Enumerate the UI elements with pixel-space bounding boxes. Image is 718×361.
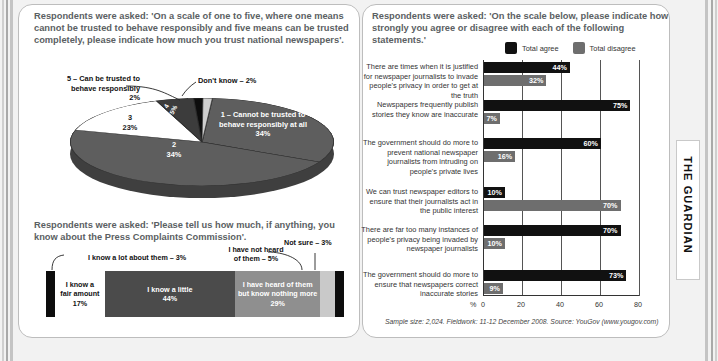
bar-disagree-5: 10% bbox=[484, 238, 505, 249]
sbar-callout-knowalot: I know a lot about them – 3% bbox=[88, 253, 186, 262]
stack-seg-alittle-value: 44% bbox=[163, 294, 177, 303]
stack-seg-heardof: I have heard of thembut know nothing mor… bbox=[235, 271, 321, 317]
bar-disagree-1-value: 32% bbox=[529, 76, 546, 85]
bar-chart-x-axis bbox=[483, 295, 639, 296]
x-tick-80: 80 bbox=[634, 300, 642, 309]
bar-disagree-6: 9% bbox=[484, 283, 503, 294]
stack-seg-heardof-label: I have heard of thembut know nothing mor… bbox=[238, 280, 317, 298]
bar-disagree-2-value: 7% bbox=[487, 114, 500, 123]
bar-agree-2-value: 75% bbox=[613, 101, 630, 110]
stack-seg-heardof-value: 29% bbox=[270, 299, 284, 308]
legend-swatch-agree bbox=[505, 42, 517, 54]
legend-swatch-disagree bbox=[573, 42, 585, 54]
bar-row-label-4: We can trust newspaper editors to ensure… bbox=[360, 187, 478, 216]
pie-callout-dontknow: Don't know – 2% bbox=[198, 76, 256, 86]
bar-agree-6-value: 73% bbox=[609, 271, 626, 280]
bar-chart-statements: There are times when it is justified for… bbox=[483, 60, 639, 296]
page-edge-line-1 bbox=[705, 0, 708, 361]
bar-disagree-1: 32% bbox=[484, 75, 546, 86]
gridline-80 bbox=[639, 60, 640, 296]
pie-label-3: 323% bbox=[110, 113, 150, 132]
bar-agree-5-value: 70% bbox=[603, 226, 620, 235]
sbar-callout-nothead: I have not heardof them – 5% bbox=[213, 245, 299, 264]
gridline-60 bbox=[600, 60, 601, 296]
question-trust-text: Respondents were asked: 'On a scale of o… bbox=[34, 10, 354, 47]
bar-disagree-5-value: 10% bbox=[488, 239, 505, 248]
bar-agree-1: 44% bbox=[484, 62, 570, 73]
x-axis-unit-label: % bbox=[470, 300, 476, 309]
bar-disagree-4-value: 70% bbox=[603, 201, 620, 210]
gridline-40 bbox=[561, 60, 562, 296]
stack-seg-knowalot bbox=[46, 271, 55, 317]
bar-agree-3: 60% bbox=[484, 138, 601, 149]
stack-seg-notheard bbox=[320, 271, 335, 317]
page-edge-line-2 bbox=[711, 0, 713, 361]
bar-row-label-1: There are times when it is justified for… bbox=[360, 62, 478, 100]
pie-callout-5: 5 – Can be trusted tobehave responsibly2… bbox=[36, 74, 140, 103]
bar-chart-y-axis bbox=[483, 60, 484, 296]
x-tick-0: 0 bbox=[481, 300, 485, 309]
source-footnote: Sample size: 2,024. Fieldwork: 11-12 Dec… bbox=[385, 318, 665, 325]
page-spine-line-2 bbox=[6, 0, 8, 361]
legend-label-agree: Total agree bbox=[522, 44, 559, 53]
sbar-callout-notsure: Not sure – 3% bbox=[284, 238, 332, 247]
bar-agree-2: 75% bbox=[484, 100, 630, 111]
legend-item-agree: Total agree bbox=[505, 42, 559, 54]
page-spine-line-3 bbox=[10, 0, 13, 361]
x-tick-20: 20 bbox=[517, 300, 525, 309]
guardian-masthead-label: THE GUARDIAN bbox=[682, 136, 694, 274]
guardian-masthead-box: THE GUARDIAN bbox=[676, 140, 700, 280]
stack-seg-notsure bbox=[335, 271, 344, 317]
bar-disagree-2: 7% bbox=[484, 113, 500, 124]
bar-row-label-6: The government should do more to ensure … bbox=[360, 270, 478, 299]
bar-agree-4-value: 10% bbox=[488, 188, 505, 197]
pie-label-1: 1 – Cannot be trusted tobehave responsib… bbox=[205, 110, 321, 139]
pie-label-2: 234% bbox=[154, 140, 194, 159]
bar-agree-5: 70% bbox=[484, 225, 621, 236]
legend-label-disagree: Total disagree bbox=[590, 44, 636, 53]
stack-seg-alittle-label: I know a little bbox=[147, 285, 192, 294]
infographic-page: Respondents were asked: 'On a scale of o… bbox=[0, 0, 718, 361]
bar-row-label-3: The government should do more to prevent… bbox=[360, 138, 478, 176]
bar-chart-legend: Total agree Total disagree bbox=[505, 42, 636, 54]
gridline-20 bbox=[522, 60, 523, 296]
page-edge-line-3 bbox=[715, 0, 717, 361]
bar-disagree-4: 70% bbox=[484, 200, 621, 211]
legend-item-disagree: Total disagree bbox=[573, 42, 636, 54]
stack-seg-fairamount-label: I know afair amount bbox=[60, 280, 99, 298]
stack-seg-fairamount-value: 17% bbox=[73, 299, 87, 308]
stacked-bar-pcc: I know afair amount 17% I know a little … bbox=[46, 271, 344, 317]
x-tick-60: 60 bbox=[595, 300, 603, 309]
bar-row-label-2: Newspapers frequently publish stories th… bbox=[360, 100, 478, 119]
bar-agree-6: 73% bbox=[484, 270, 626, 281]
stack-seg-fairamount: I know afair amount 17% bbox=[55, 271, 105, 317]
bar-disagree-6-value: 9% bbox=[490, 284, 503, 293]
bar-agree-3-value: 60% bbox=[584, 139, 601, 148]
bar-disagree-3-value: 16% bbox=[498, 152, 515, 161]
bar-row-label-5: There are far too many instances of peop… bbox=[360, 225, 478, 254]
bar-agree-4: 10% bbox=[484, 187, 505, 198]
stack-seg-alittle: I know a little 44% bbox=[105, 271, 235, 317]
page-spine-line-1 bbox=[2, 0, 4, 361]
bar-disagree-3: 16% bbox=[484, 151, 515, 162]
x-tick-40: 40 bbox=[556, 300, 564, 309]
bar-agree-1-value: 44% bbox=[552, 63, 569, 72]
